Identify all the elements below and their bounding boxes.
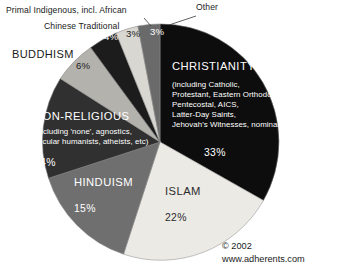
christianity-detail-line: (including Catholic, <box>172 80 297 90</box>
copyright-text: © 2002 <box>222 240 305 253</box>
christianity-detail-line: Jehovah's Witnesses, nominal, etc) <box>172 120 297 130</box>
non-religious-detail-line: secular humanists, atheists, etc) <box>34 137 148 147</box>
percent-buddhism: 6% <box>76 60 90 71</box>
christianity-detail-line: Pentecostal, AICS, <box>172 100 297 110</box>
label-buddhism: BUDDHISM <box>12 48 74 61</box>
credit-block: © 2002 www.adherents.com <box>222 240 305 267</box>
christianity-detail-line: Protestant, Eastern Orthodox, <box>172 90 297 100</box>
label-hinduism: HINDUISM <box>74 176 133 188</box>
percent-primal-indigenous: 3% <box>126 28 140 39</box>
label-non-religious: NON-RELIGIOUS <box>34 110 129 122</box>
percent-other: 3% <box>150 26 164 37</box>
non-religious-detail-line: (including 'none', agnostics, <box>34 127 148 137</box>
label-primal-indigenous: Primal Indigenous, incl. African <box>6 5 127 15</box>
percent-christianity: 33% <box>204 147 226 158</box>
percent-hinduism: 15% <box>74 203 96 214</box>
christianity-detail-line: Latter-Day Saints, <box>172 110 297 120</box>
label-christianity: CHRISTIANITY <box>172 60 255 72</box>
percent-chinese-traditional: 4% <box>104 31 118 42</box>
label-christianity-detail: (including Catholic, Protestant, Eastern… <box>172 80 297 130</box>
label-non-religious-detail: (including 'none', agnostics, secular hu… <box>34 127 148 147</box>
label-chinese-traditional: Chinese Traditional <box>44 21 119 31</box>
label-islam: ISLAM <box>165 185 201 197</box>
percent-islam: 22% <box>165 212 187 223</box>
website-text: www.adherents.com <box>222 253 305 266</box>
label-other: Other <box>196 2 218 12</box>
percent-non-religious: 14% <box>34 157 56 168</box>
pie-chart-figure: Primal Indigenous, incl. African Chinese… <box>0 0 345 279</box>
